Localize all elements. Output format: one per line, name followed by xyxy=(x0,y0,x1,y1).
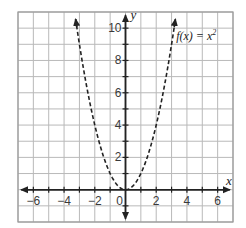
x-tick-label: 6 xyxy=(214,194,221,208)
y-tick-label: 2 xyxy=(115,150,122,164)
y-tick-label: 6 xyxy=(115,86,122,100)
tick-labels: −6−4−20246246810 xyxy=(27,21,222,208)
y-axis-label: y xyxy=(129,7,137,22)
x-axis-label: x xyxy=(225,173,232,188)
y-tick-label: 4 xyxy=(115,118,122,132)
x-tick-label: −2 xyxy=(88,194,102,208)
x-tick-label: −6 xyxy=(27,194,41,208)
x-tick-label: 0 xyxy=(116,194,123,208)
x-tick-label: 2 xyxy=(153,194,160,208)
x-tick-label: 4 xyxy=(184,194,191,208)
coordinate-plane: −6−4−20246246810 x y f(x) = x2 xyxy=(0,0,246,228)
function-label: f(x) = x2 xyxy=(176,28,216,43)
function-label-exponent: 2 xyxy=(212,28,216,37)
y-tick-label: 10 xyxy=(108,21,122,35)
x-tick-label: −4 xyxy=(57,194,71,208)
axes xyxy=(21,15,230,219)
curve-arrow-left-icon xyxy=(76,19,77,27)
function-label-text: f(x) = x xyxy=(176,29,213,43)
curve-arrow-right-icon xyxy=(174,19,175,27)
y-tick-label: 8 xyxy=(115,53,122,67)
